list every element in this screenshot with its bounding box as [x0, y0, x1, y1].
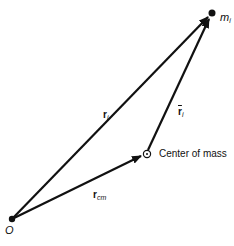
vector-r-cm [12, 156, 141, 219]
vector-diagram [0, 0, 234, 246]
center-of-mass-label: Center of mass [159, 148, 227, 159]
r-i-label: ri [103, 104, 108, 122]
r-cm-label: rcm [93, 184, 106, 202]
mass-label-sub: i [229, 17, 231, 24]
mass-label: mi [220, 7, 231, 25]
r-bar-i-label-sub: i [182, 111, 184, 118]
vector-r-bar-i [148, 19, 209, 150]
mass-point [209, 10, 216, 17]
r-bar-i-label: ri [178, 101, 183, 119]
center-of-mass-dot [146, 153, 148, 155]
origin-label: O [5, 224, 14, 236]
r-i-label-sub: i [107, 114, 109, 121]
r-cm-label-sub: cm [97, 194, 106, 201]
mass-label-main: m [220, 11, 229, 23]
origin-point [9, 216, 15, 222]
